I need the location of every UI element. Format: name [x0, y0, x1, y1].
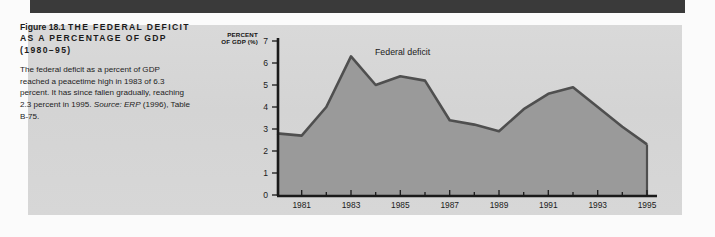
- y-tick-3: 3: [263, 124, 268, 134]
- page-background: Figure 18.1 THE FEDERAL DEFICIT AS A PER…: [0, 0, 715, 237]
- chart-svg: PERCENT OF GDP (%) 7 6 5 4 3 2 1 0: [205, 28, 675, 210]
- page-top-dark-bar: [30, 0, 685, 13]
- figure-caption-title: Figure 18.1 THE FEDERAL DEFICIT AS A PER…: [20, 22, 190, 56]
- y-axis-tick-labels: 7 6 5 4 3 2 1 0: [263, 36, 268, 200]
- y-tick-0: 0: [263, 190, 268, 200]
- federal-deficit-area-chart: PERCENT OF GDP (%) 7 6 5 4 3 2 1 0: [205, 28, 675, 210]
- figure-number: Figure 18.1: [20, 22, 65, 32]
- x-tick-1983: 1983: [342, 200, 361, 210]
- x-tick-1989: 1989: [490, 200, 509, 210]
- y-tick-2: 2: [263, 146, 268, 156]
- x-tick-1987: 1987: [440, 200, 459, 210]
- y-tick-1: 1: [263, 168, 268, 178]
- y-tick-5: 5: [263, 80, 268, 90]
- y-axis-title-line1: PERCENT: [227, 31, 258, 38]
- x-tick-1991: 1991: [539, 200, 558, 210]
- caption-source: Source: ERP: [94, 100, 141, 109]
- x-tick-1981: 1981: [292, 200, 311, 210]
- y-tick-4: 4: [263, 102, 268, 112]
- y-axis-title-line2: OF GDP (%): [221, 38, 258, 45]
- y-tick-7: 7: [263, 36, 268, 46]
- series-label-federal-deficit: Federal deficit: [375, 47, 431, 57]
- y-tick-6: 6: [263, 58, 268, 68]
- x-tick-1995: 1995: [638, 200, 657, 210]
- x-axis-tick-labels: 1981 1983 1985 1987 1989 1991 1993 1995: [292, 200, 656, 210]
- x-tick-1985: 1985: [391, 200, 410, 210]
- deficit-area-fill: [277, 56, 647, 195]
- figure-caption-body: The federal deficit as a percent of GDP …: [20, 64, 190, 122]
- x-tick-1993: 1993: [588, 200, 607, 210]
- figure-caption: Figure 18.1 THE FEDERAL DEFICIT AS A PER…: [20, 22, 190, 122]
